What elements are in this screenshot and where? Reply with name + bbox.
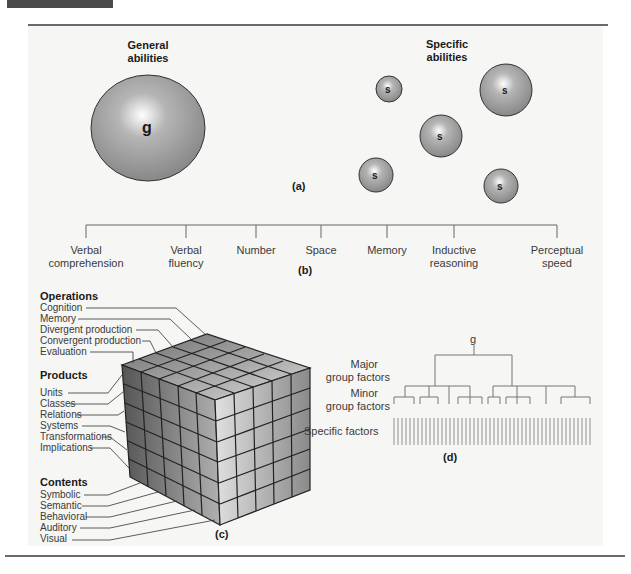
ability-perceptual-speed: Perceptualspeed (522, 244, 592, 270)
ability-memory: Memory (357, 244, 417, 257)
caption-b: (b) (298, 264, 312, 277)
caption-a: (a) (292, 180, 305, 193)
ability-number: Number (226, 244, 286, 257)
caption-d: (d) (443, 451, 457, 464)
minor-group-factors-label: Minorgroup factors (310, 387, 390, 413)
general-abilities-title: Generalabilities (118, 39, 178, 65)
figure-graphics (0, 0, 631, 574)
specific-factors-label: Specific factors (304, 425, 379, 438)
specific-factor-label: s (385, 83, 391, 96)
specific-abilities-title: Specificabilities (417, 38, 477, 64)
specific-factor-label: s (502, 84, 508, 97)
ability-verbal-fluency: Verbalfluency (156, 244, 216, 270)
products-list: Units Classes Relations Systems Transfor… (40, 387, 112, 453)
ability-tree (86, 225, 557, 238)
contents-title: Contents (40, 476, 88, 489)
ability-inductive-reasoning: Inductivereasoning (424, 244, 484, 270)
factor-dendrogram (394, 345, 590, 404)
cube (122, 334, 310, 525)
specific-factor-label: s (497, 180, 503, 193)
ability-verbal-comprehension: Verbalcomprehension (41, 244, 131, 270)
general-factor-label: g (142, 119, 152, 137)
specific-factor-label: s (372, 169, 378, 182)
specific-factor-lines (394, 418, 590, 445)
products-title: Products (40, 369, 88, 382)
g-label: g (470, 333, 476, 346)
caption-c: (c) (215, 528, 228, 541)
operations-list: Cognition Memory Divergent production Co… (40, 302, 141, 357)
specific-factor-label: s (437, 130, 443, 143)
ability-space: Space (291, 244, 351, 257)
contents-list: Symbolic Semantic Behavioral Auditory Vi… (40, 489, 87, 544)
major-group-factors-label: Majorgroup factors (310, 358, 390, 384)
